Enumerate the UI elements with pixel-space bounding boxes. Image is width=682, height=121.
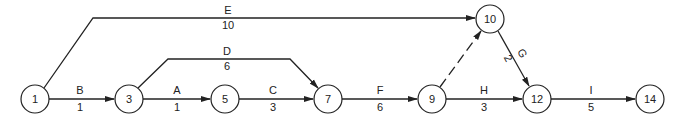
duration-label-F: 6 [377,101,383,113]
node-label-9: 9 [429,93,435,105]
activity-label-B: B [76,84,83,96]
activity-label-C: C [269,84,277,96]
node-label-14: 14 [644,93,656,105]
activity-label-A: A [173,84,181,96]
duration-label-G: 2 [502,53,515,64]
duration-label-E: 10 [222,19,234,31]
duration-label-C: 3 [270,101,276,113]
edge-E [44,18,475,88]
activity-label-I: I [589,84,592,96]
duration-label-I: 5 [588,101,594,113]
node-7: 7 [314,85,342,113]
node-5: 5 [211,85,239,113]
node-label-10: 10 [484,13,496,25]
duration-label-D: 6 [224,60,230,72]
activity-label-G: G [515,47,530,60]
activity-label-E: E [224,4,231,16]
node-10: 10 [476,5,504,33]
edge-dummy-9-10 [440,31,481,87]
node-label-3: 3 [126,93,132,105]
node-1: 1 [21,85,49,113]
duration-label-H: 3 [481,101,487,113]
activity-label-D: D [223,45,231,57]
node-9: 9 [418,85,446,113]
node-3: 3 [115,85,143,113]
node-label-7: 7 [325,93,331,105]
node-label-1: 1 [32,93,38,105]
node-label-5: 5 [222,93,228,105]
duration-label-A: 1 [174,101,180,113]
node-14: 14 [636,85,664,113]
activity-label-H: H [480,84,488,96]
node-12: 12 [523,85,551,113]
activity-network-diagram: B 1 A 1 C 3 D 6 E 10 F 6 G 2 H 3 I 5 1 3… [0,0,682,121]
duration-label-B: 1 [77,101,83,113]
node-label-12: 12 [531,93,543,105]
activity-label-F: F [377,84,384,96]
